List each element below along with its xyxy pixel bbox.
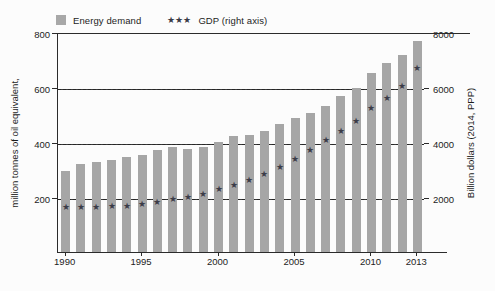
x-tick-label-2005: 2005 <box>283 256 304 267</box>
y-tick-mark-right-4000 <box>424 143 429 144</box>
y-tick-right-4000: 4000 <box>424 139 454 150</box>
y-tick-mark-left-800 <box>52 33 57 34</box>
gdp-point-2012: ★ <box>398 82 407 91</box>
gdp-point-1991: ★ <box>76 203 85 212</box>
x-tick-mark-2013 <box>416 252 417 256</box>
x-tick-mark-1995 <box>141 252 142 256</box>
bar-2010 <box>367 73 376 253</box>
plot-inner: ★★★★★★★★★★★★★★★★★★★★★★★★ <box>58 34 424 253</box>
bar-2001 <box>229 136 238 253</box>
bar-2004 <box>275 124 284 253</box>
gdp-point-2008: ★ <box>336 127 345 136</box>
gdp-point-2000: ★ <box>214 185 223 194</box>
gdp-point-1992: ★ <box>92 203 101 212</box>
gdp-point-1990: ★ <box>61 203 70 212</box>
y-tick-mark-left-600 <box>52 88 57 89</box>
y-tick-right-8000: 8000 <box>424 29 454 40</box>
bar-1990 <box>61 171 70 254</box>
y-tick-mark-left-200 <box>52 198 57 199</box>
x-tick-label-2013: 2013 <box>406 256 427 267</box>
gdp-point-1997: ★ <box>168 195 177 204</box>
x-tick-label-1990: 1990 <box>54 256 75 267</box>
plot-area: ★★★★★★★★★★★★★★★★★★★★★★★★ 200400600800200… <box>57 33 424 253</box>
chart-figure: Energy demand ★★★ GDP (right axis) ★★★★★… <box>0 0 495 291</box>
gdp-point-2001: ★ <box>229 181 238 190</box>
y-tick-left-400: 400 <box>34 139 58 150</box>
bar-2009 <box>352 88 361 253</box>
legend-star-icon: ★★★ <box>167 16 191 25</box>
bar-2011 <box>382 63 391 253</box>
bar-2013 <box>413 41 422 253</box>
legend-label-gdp: GDP (right axis) <box>198 15 267 26</box>
y-tick-left-200: 200 <box>34 194 58 205</box>
gdp-point-1998: ★ <box>183 193 192 202</box>
gdp-point-2010: ★ <box>367 104 376 113</box>
legend-swatch-icon <box>56 15 66 25</box>
gdp-point-2002: ★ <box>245 176 254 185</box>
gdp-point-1996: ★ <box>153 198 162 207</box>
gdp-point-2011: ★ <box>382 94 391 103</box>
x-tick-label-2010: 2010 <box>360 256 381 267</box>
y-tick-mark-left-400 <box>52 143 57 144</box>
y-axis-right-top-rule <box>424 33 470 34</box>
y-tick-left-600: 600 <box>34 84 58 95</box>
gdp-point-1993: ★ <box>107 202 116 211</box>
x-tick-mark-2000 <box>218 252 219 256</box>
bar-2003 <box>260 131 269 253</box>
bar-2008 <box>336 96 345 253</box>
gdp-point-2007: ★ <box>321 136 330 145</box>
gdp-point-1999: ★ <box>199 190 208 199</box>
y-tick-right-2000: 2000 <box>424 194 454 205</box>
chart-legend: Energy demand ★★★ GDP (right axis) <box>56 12 267 28</box>
gdp-point-2003: ★ <box>260 170 269 179</box>
x-axis-line <box>57 252 447 253</box>
legend-item-energy-demand: Energy demand <box>56 15 141 26</box>
gdp-point-2013: ★ <box>413 64 422 73</box>
y-tick-mark-right-6000 <box>424 88 429 89</box>
bar-2000 <box>214 142 223 253</box>
x-tick-label-1995: 1995 <box>131 256 152 267</box>
y-tick-left-800: 800 <box>34 29 58 40</box>
x-tick-label-2000: 2000 <box>207 256 228 267</box>
bar-2006 <box>306 113 315 253</box>
bar-1999 <box>199 147 208 253</box>
gdp-point-2004: ★ <box>275 163 284 172</box>
x-tick-mark-2010 <box>370 252 371 256</box>
y-tick-right-6000: 6000 <box>424 84 454 95</box>
x-tick-mark-2005 <box>294 252 295 256</box>
bar-2007 <box>321 106 330 253</box>
y-axis-title-right: Billion dollars (2014, PPP) <box>465 88 476 198</box>
gdp-point-1994: ★ <box>122 202 131 211</box>
gdp-point-2005: ★ <box>291 155 300 164</box>
gdp-point-1995: ★ <box>138 200 147 209</box>
legend-item-gdp: ★★★ GDP (right axis) <box>167 15 267 26</box>
y-axis-title-left: million tonnes of oil equivalent, <box>9 78 20 207</box>
bar-2005 <box>291 118 300 253</box>
legend-label-energy-demand: Energy demand <box>73 15 141 26</box>
bar-2002 <box>245 135 254 253</box>
gdp-point-2009: ★ <box>352 117 361 126</box>
x-tick-mark-1990 <box>65 252 66 256</box>
gdp-point-2006: ★ <box>306 146 315 155</box>
y-tick-mark-right-2000 <box>424 198 429 199</box>
